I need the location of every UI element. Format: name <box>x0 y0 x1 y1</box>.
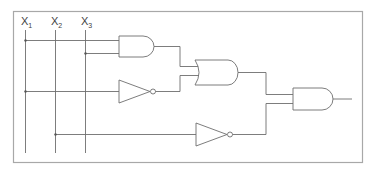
not-bubble-2 <box>228 132 233 137</box>
logic-circuit-diagram: X1 X2 X3 <box>0 0 373 172</box>
junction-dot <box>54 133 56 135</box>
diagram-frame <box>14 12 363 163</box>
input-label-x3: X3 <box>81 15 92 29</box>
svg-text:X2: X2 <box>51 15 62 29</box>
wire-not2-to-and2 <box>233 104 294 135</box>
and-gate-1 <box>119 36 154 57</box>
input-label-x1: X1 <box>21 15 32 29</box>
not-bubble-1 <box>151 89 156 94</box>
wire-not1-to-or <box>156 76 200 92</box>
or-gate <box>195 60 238 85</box>
junction-dot <box>84 52 86 54</box>
svg-text:X3: X3 <box>81 15 92 29</box>
not-gate-2 <box>196 123 227 146</box>
wire-or-to-and2 <box>238 73 293 95</box>
not-gate-1 <box>119 80 150 103</box>
and-gate-2 <box>293 88 333 110</box>
junction-dot <box>24 90 26 92</box>
input-label-x2: X2 <box>51 15 62 29</box>
wire-and1-to-or <box>154 47 199 67</box>
svg-text:X1: X1 <box>21 15 32 29</box>
junction-dot <box>24 39 26 41</box>
